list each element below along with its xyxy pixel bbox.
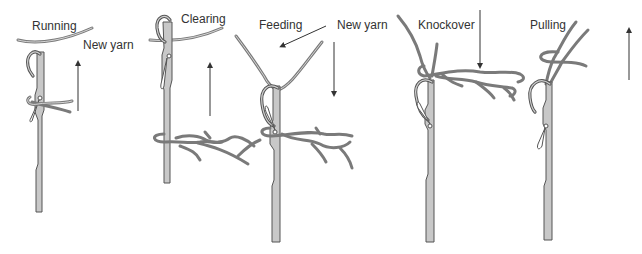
stage-running xyxy=(18,28,92,212)
stage-label-feeding: Feeding xyxy=(259,18,302,32)
stage-feeding xyxy=(236,26,352,242)
needle-knockover xyxy=(416,80,434,242)
needle-pulling xyxy=(530,81,552,240)
knitting-cycle-diagram: Running New yarn Clearing Feeding New ya… xyxy=(0,0,642,254)
stage-label-running: Running xyxy=(32,19,77,33)
needle-feeding xyxy=(262,86,280,242)
stage-label-clearing: Clearing xyxy=(181,12,226,26)
stage-knockover xyxy=(398,10,524,242)
stage-label-pulling: Pulling xyxy=(530,18,566,32)
stage-label-knockover: Knockover xyxy=(418,18,475,32)
new-yarn-label-feeding: New yarn xyxy=(337,18,388,32)
stage-pulling xyxy=(530,22,629,240)
new-yarn-label-running: New yarn xyxy=(83,38,134,52)
needle-running xyxy=(28,52,44,212)
